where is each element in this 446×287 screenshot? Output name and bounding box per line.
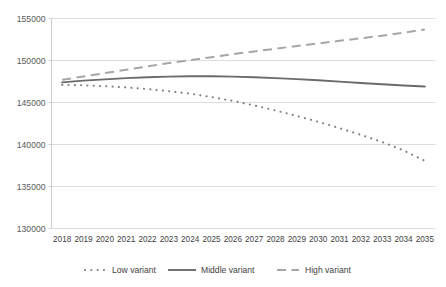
legend-label-high-variant[interactable]: High variant — [305, 265, 351, 275]
x-axis-tick-label: 2027 — [245, 235, 264, 244]
x-axis-tick-label: 2030 — [309, 235, 328, 244]
x-axis-tick-label: 2026 — [224, 235, 243, 244]
series-line-middle-variant — [62, 76, 425, 86]
x-axis-tick-label: 2029 — [288, 235, 307, 244]
x-axis-tick-label: 2018 — [53, 235, 72, 244]
y-axis-tick-label: 140000 — [17, 140, 46, 150]
legend-label-low-variant[interactable]: Low variant — [112, 265, 157, 275]
x-axis-tick-label: 2031 — [330, 235, 349, 244]
y-axis-tick-label: 145000 — [17, 98, 46, 108]
chart-legend: Low variantMiddle variantHigh variant — [85, 265, 351, 275]
x-axis-tick-labels: 2018201920202021202220232024202520262027… — [53, 235, 434, 244]
x-axis-tick-label: 2025 — [202, 235, 221, 244]
x-axis-tick-label: 2028 — [266, 235, 285, 244]
x-axis-tick-label: 2023 — [160, 235, 179, 244]
x-axis-tick-label: 2034 — [394, 235, 413, 244]
x-axis-tick-label: 2033 — [373, 235, 392, 244]
legend-label-middle-variant[interactable]: Middle variant — [201, 265, 255, 275]
x-axis-tick-label: 2021 — [117, 235, 136, 244]
x-axis-tick-label: 2020 — [96, 235, 115, 244]
x-axis-tick-label: 2022 — [138, 235, 157, 244]
series-line-low-variant — [62, 85, 425, 161]
x-axis-tick-label: 2019 — [74, 235, 93, 244]
gridlines-group — [52, 19, 436, 229]
population-projection-chart: 130000135000140000145000150000155000 201… — [0, 0, 446, 287]
chart-canvas: 130000135000140000145000150000155000 201… — [0, 0, 446, 287]
y-axis-tick-label: 150000 — [17, 56, 46, 66]
data-series-group — [62, 29, 425, 160]
x-axis-tick-label: 2035 — [416, 235, 435, 244]
series-line-high-variant — [62, 29, 425, 79]
y-axis-tick-label: 155000 — [17, 14, 46, 24]
y-axis-tick-label: 135000 — [17, 182, 46, 192]
x-axis-tick-label: 2024 — [181, 235, 200, 244]
x-axis-tick-label: 2032 — [352, 235, 371, 244]
y-axis-tick-labels: 130000135000140000145000150000155000 — [17, 14, 52, 234]
y-axis-tick-label: 130000 — [17, 224, 46, 234]
